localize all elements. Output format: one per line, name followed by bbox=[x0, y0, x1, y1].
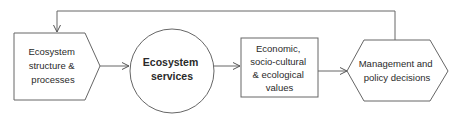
decisions-node-shape bbox=[347, 40, 448, 101]
ecosystem-services-diagram: Ecosystem structure & processes Ecosyste… bbox=[0, 0, 458, 114]
structure-node-label: Ecosystem structure & processes bbox=[28, 46, 77, 85]
feedback-arrow bbox=[57, 11, 395, 40]
